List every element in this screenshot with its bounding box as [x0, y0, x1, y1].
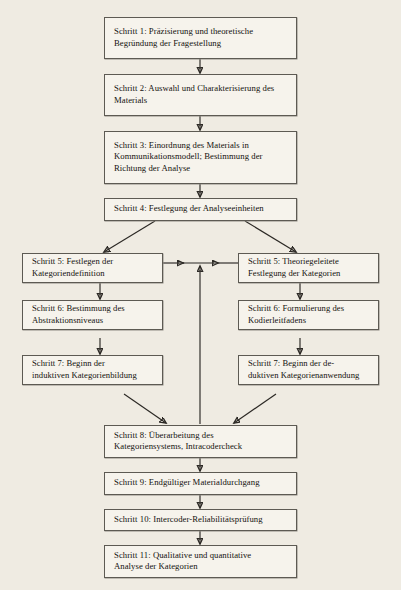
node-line: Abstraktionsniveaus — [32, 315, 155, 326]
node-line: Festlegung der Kategorien — [248, 268, 371, 279]
node-line: Schritt 2: Auswahl und Charakterisierung… — [114, 83, 289, 94]
node-line: Schritt 10: Intercoder-Reliabilitätsprüf… — [114, 514, 289, 525]
node-line: Schritt 5: Festlegen der — [32, 256, 155, 267]
connector-7-deduktiv-to-8 — [234, 394, 276, 423]
node-line: Schritt 7: Beginn der de- — [248, 358, 371, 369]
node-schritt-11[interactable]: Schritt 11: Qualitative und quantitative… — [104, 545, 297, 578]
node-line: Kategoriensystems, Intracodercheck — [114, 441, 289, 452]
node-line: Kategoriendefinition — [32, 268, 155, 279]
node-schritt-4[interactable]: Schritt 4: Festlegung der Analyseeinheit… — [104, 198, 297, 221]
node-line: Materials — [114, 95, 289, 106]
node-schritt-10[interactable]: Schritt 10: Intercoder-Reliabilitätsprüf… — [104, 509, 297, 531]
connector-4-to-5-deduktiv — [245, 221, 296, 252]
node-line: Schritt 3: Einordnung des Materials in — [114, 140, 289, 151]
node-line: Richtung der Analyse — [114, 163, 289, 174]
node-schritt-9[interactable]: Schritt 9: Endgültiger Materialdurchgang — [104, 472, 297, 495]
node-schritt-3[interactable]: Schritt 3: Einordnung des Materials in K… — [104, 131, 297, 184]
node-schritt-8[interactable]: Schritt 8: Überarbeitung des Kategoriens… — [104, 425, 297, 458]
node-line: Schritt 11: Qualitative und quantitative — [114, 550, 289, 561]
node-line: Schritt 7: Beginn der — [32, 358, 155, 369]
node-schritt-7-induktiv[interactable]: Schritt 7: Beginn der induktiven Kategor… — [22, 355, 163, 385]
node-line: Schritt 1: Präzisierung und theoretische — [114, 26, 289, 37]
node-schritt-2[interactable]: Schritt 2: Auswahl und Charakterisierung… — [104, 74, 297, 116]
node-line: Analyse der Kategorien — [114, 561, 289, 572]
node-line: Schritt 5: Theoriegeleitete — [248, 256, 371, 267]
node-line: Kommunikationsmodell; Bestimmung der — [114, 151, 289, 162]
node-line: Schritt 9: Endgültiger Materialdurchgang — [114, 477, 289, 488]
node-line: Begründung der Fragestellung — [114, 38, 289, 49]
node-schritt-7-deduktiv[interactable]: Schritt 7: Beginn der de- duktiven Kateg… — [238, 355, 379, 385]
node-line: Kodierleitfadens — [248, 315, 371, 326]
node-line: Schritt 6: Bestimmung des — [32, 303, 155, 314]
node-schritt-5-deduktiv[interactable]: Schritt 5: Theoriegeleitete Festlegung d… — [238, 253, 379, 283]
node-line: Schritt 4: Festlegung der Analyseeinheit… — [114, 203, 289, 214]
node-line: Schritt 6: Formulierung des — [248, 303, 371, 314]
node-schritt-5-induktiv[interactable]: Schritt 5: Festlegen der Kategoriendefin… — [22, 253, 163, 283]
node-line: induktiven Kategorienbildung — [32, 370, 155, 381]
node-line: duktiven Kategorienanwendung — [248, 370, 371, 381]
flowchart-canvas: Schritt 1: Präzisierung und theoretische… — [0, 0, 401, 590]
connector-7-induktiv-to-8 — [124, 394, 166, 423]
node-schritt-6-induktiv[interactable]: Schritt 6: Bestimmung des Abstraktionsni… — [22, 300, 163, 330]
node-schritt-1[interactable]: Schritt 1: Präzisierung und theoretische… — [104, 17, 297, 59]
node-line: Schritt 8: Überarbeitung des — [114, 430, 289, 441]
node-schritt-6-deduktiv[interactable]: Schritt 6: Formulierung des Kodierleitfa… — [238, 300, 379, 330]
connector-4-to-5-induktiv — [104, 221, 155, 252]
